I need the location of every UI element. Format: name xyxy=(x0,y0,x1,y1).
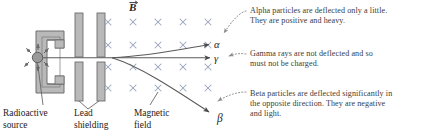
field-cross-icon xyxy=(180,19,186,25)
annotation-gamma-text: Gamma rays are not deflected and so must… xyxy=(250,49,434,70)
field-cross-icon xyxy=(205,85,211,91)
alpha-symbol-label: α xyxy=(214,39,220,50)
annotation-leaders xyxy=(218,11,246,101)
annotation-beta-text: Beta particles are deflected significant… xyxy=(250,89,434,120)
leader-beta xyxy=(218,92,246,101)
lead-shielding-plates xyxy=(75,13,105,101)
gamma-symbol-label: γ xyxy=(214,53,218,64)
annotation-alpha-text: Alpha particles are deflected only a lit… xyxy=(250,6,434,27)
field-cross-icon xyxy=(205,64,211,70)
alpha-path xyxy=(112,45,209,58)
beta-symbol-label: β xyxy=(217,112,223,124)
caption-radioactive-source: Radioactive source xyxy=(3,108,79,131)
magnetic-field-grid xyxy=(105,19,211,91)
leader-alpha xyxy=(224,11,246,33)
field-cross-icon xyxy=(155,19,161,25)
magnetic-field-vector-label: B xyxy=(129,1,136,13)
radiation-deflection-diagram: B α γ β Alpha particles are deflected on… xyxy=(0,0,435,139)
field-cross-icon xyxy=(130,42,136,48)
field-cross-icon xyxy=(105,42,111,48)
field-cross-icon xyxy=(155,85,161,91)
field-cross-icon xyxy=(205,19,211,25)
field-cross-icon xyxy=(105,85,111,91)
caption-magnetic-field: Magnetic field xyxy=(134,108,196,131)
caption-lead-shielding: Lead shielding xyxy=(74,108,136,131)
source-pellet-icon xyxy=(32,52,42,62)
field-cross-icon xyxy=(180,85,186,91)
vector-arrow-icon xyxy=(129,0,138,4)
field-cross-icon xyxy=(130,85,136,91)
field-cross-icon xyxy=(155,42,161,48)
field-cross-icon xyxy=(105,64,111,70)
leader-field-caption xyxy=(150,92,158,105)
field-cross-icon xyxy=(130,19,136,25)
lead-plate-2-lower xyxy=(97,62,105,101)
field-cross-icon xyxy=(180,64,186,70)
lead-plate-1-lower xyxy=(75,62,83,101)
field-cross-icon xyxy=(155,64,161,70)
lead-plate-2-upper xyxy=(97,13,105,57)
particle-paths xyxy=(43,45,210,113)
field-cross-icon xyxy=(105,19,111,25)
lead-plate-1-upper xyxy=(75,13,83,57)
field-cross-icon xyxy=(180,42,186,48)
leader-gamma xyxy=(229,54,246,56)
